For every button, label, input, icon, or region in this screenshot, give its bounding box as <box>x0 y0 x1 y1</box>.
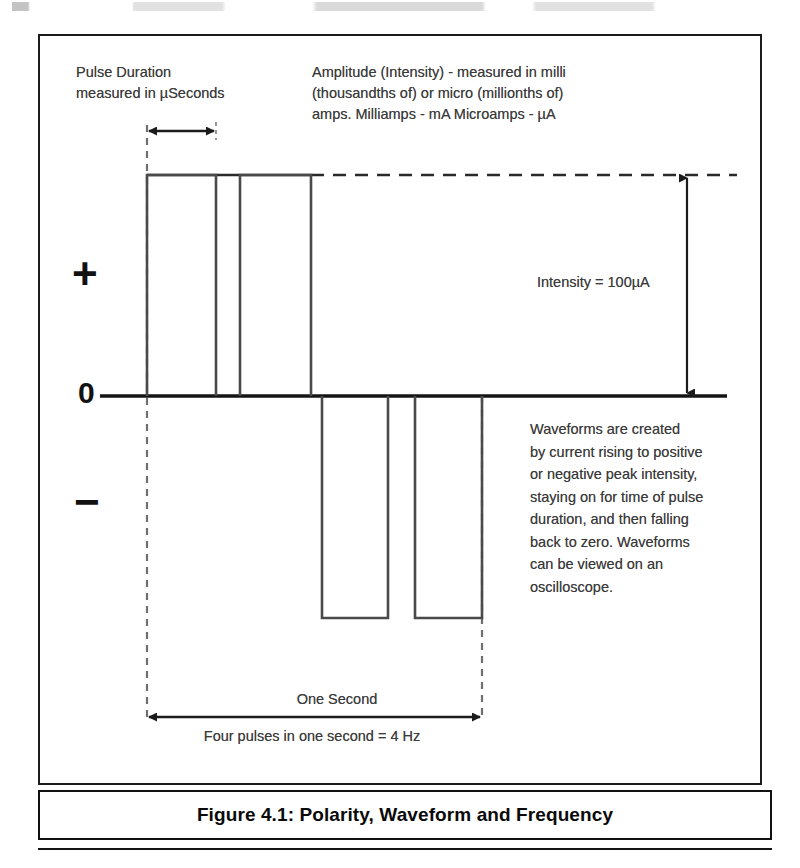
waveform-description-annotation: Waveforms are created by current rising … <box>530 418 736 598</box>
amplitude-annotation: Amplitude (Intensity) - measured in mill… <box>312 62 712 125</box>
intensity-value-label: Intensity = 100µA <box>537 272 757 293</box>
scan-artifact-streak <box>12 2 788 11</box>
caption-underline-rule <box>38 848 772 850</box>
figure-page: + 0 − Pulse Duration measured in µSecond… <box>0 0 800 868</box>
figure-caption-box: Figure 4.1: Polarity, Waveform and Frequ… <box>38 790 772 840</box>
one-second-label: One Second <box>237 689 437 710</box>
figure-frame <box>38 34 762 785</box>
axis-positive-symbol: + <box>72 252 98 296</box>
axis-negative-symbol: − <box>74 480 100 524</box>
frequency-label: Four pulses in one second = 4 Hz <box>132 726 492 747</box>
figure-caption-text: Figure 4.1: Polarity, Waveform and Frequ… <box>197 804 613 826</box>
pulse-duration-annotation: Pulse Duration measured in µSeconds <box>76 62 316 104</box>
axis-zero-symbol: 0 <box>78 378 95 408</box>
